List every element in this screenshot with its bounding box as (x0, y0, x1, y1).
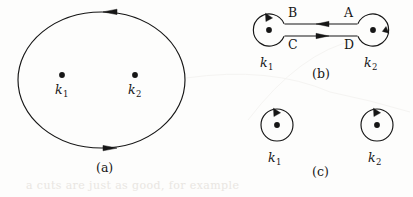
scan-bleed-arcs (186, 40, 410, 120)
panel-a-pole-dot-k1 (59, 72, 65, 78)
panel-c-pole-label-k1: k1 (268, 152, 281, 165)
panel-a-arrow-bottom (103, 145, 117, 150)
panel-c-group (261, 108, 393, 141)
panel-c-pole-dot-k1 (274, 122, 280, 128)
figure-contour-deformation: k1 k2 (a) B A C D k1 k2 (b) k1 k2 (c) a … (0, 0, 413, 197)
panel-a-pole-label-k2: k2 (128, 84, 141, 97)
panel-a-pole-label-k1: k1 (55, 84, 68, 97)
panel-c-caption: (c) (312, 166, 329, 179)
panel-c-pole-label-k2: k2 (368, 152, 381, 165)
panel-a-contour-ellipse (18, 12, 185, 148)
panel-b-pole-dot-k1 (266, 27, 272, 33)
panel-c-pole-dot-k2 (374, 122, 380, 128)
panel-b-segment-label-a: A (344, 7, 353, 20)
panel-b-bridge-lower-arrow (316, 33, 329, 38)
panel-a-caption: (a) (96, 162, 113, 175)
panel-b-segment-label-d: D (344, 39, 354, 52)
panel-b-caption: (b) (312, 68, 330, 81)
panel-b-pole-label-k2: k2 (364, 57, 377, 70)
panel-b-segment-label-c: C (288, 39, 298, 52)
panel-a-arrow-top (103, 9, 117, 14)
panel-b-pole-dot-k2 (370, 27, 376, 33)
panel-b-bridge-upper-arrow (316, 21, 329, 26)
figure-vector-layer (0, 0, 413, 197)
panel-a-pole-dot-k2 (132, 72, 138, 78)
panel-b-segment-label-b: B (288, 7, 297, 20)
panel-a-group (18, 9, 185, 151)
panel-b-pole-label-k1: k1 (260, 57, 273, 70)
panel-b-group (253, 13, 389, 46)
